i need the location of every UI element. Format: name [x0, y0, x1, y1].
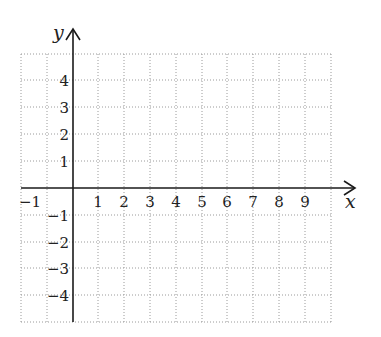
- x-tick-9: 9: [300, 193, 310, 211]
- x-tick-3: 3: [145, 193, 155, 211]
- x-tick-2: 2: [119, 193, 129, 211]
- coordinate-plane: x y −1 1 2 3 4 5 6 7 8 9 4 3 2 1 −1 −2 −…: [0, 0, 381, 337]
- x-tick-minus-1: −1: [19, 193, 41, 211]
- y-tick-minus-4: −4: [47, 287, 69, 305]
- y-tick-minus-2: −2: [47, 234, 69, 252]
- x-tick-8: 8: [274, 193, 284, 211]
- y-tick-1: 1: [59, 153, 69, 171]
- y-tick-minus-1: −1: [47, 207, 69, 225]
- x-tick-6: 6: [222, 193, 232, 211]
- y-tick-2: 2: [59, 126, 69, 144]
- y-axis-label: y: [52, 21, 64, 43]
- x-axis-label: x: [345, 190, 356, 212]
- x-tick-7: 7: [248, 193, 258, 211]
- y-tick-minus-3: −3: [47, 260, 69, 278]
- x-tick-5: 5: [197, 193, 207, 211]
- x-tick-1: 1: [93, 193, 103, 211]
- x-tick-4: 4: [171, 193, 181, 211]
- y-tick-4: 4: [59, 72, 69, 90]
- y-tick-3: 3: [59, 99, 69, 117]
